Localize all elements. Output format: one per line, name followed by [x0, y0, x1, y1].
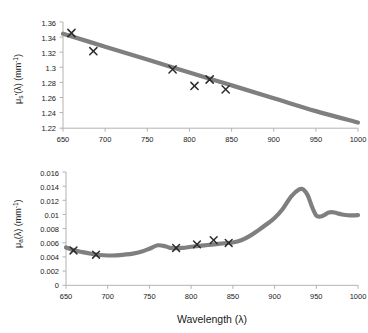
y-tick-label: 1.24 — [41, 109, 56, 118]
spectrum-curve-path — [66, 189, 358, 256]
figure-container: μs'(λ) (mm-1) 1.36 1.34 1.32 1.3 1.28 1.… — [0, 0, 368, 333]
data-point-marker — [222, 86, 229, 93]
x-tick-label: 1000 — [350, 135, 367, 144]
data-point-marker — [191, 82, 198, 89]
x-tick-label: 650 — [57, 135, 70, 144]
x-tick-label: 850 — [225, 135, 238, 144]
x-axis-title: Wavelength (λ) — [177, 313, 247, 325]
y-tick-label: 0.002 — [40, 267, 59, 276]
x-tick-label: 750 — [143, 292, 156, 301]
y-tick-marks-bottom — [63, 172, 67, 285]
y-tick-label: 0.014 — [40, 183, 59, 192]
x-tick-label: 800 — [185, 292, 198, 301]
y-tick-label: 0.016 — [40, 169, 59, 178]
x-tick-label: 700 — [99, 135, 112, 144]
chart-panel-reduced-scattering: μs'(λ) (mm-1) 1.36 1.34 1.32 1.3 1.28 1.… — [0, 0, 368, 168]
x-tick-label: 700 — [101, 292, 114, 301]
data-point-marker — [90, 48, 97, 55]
y-tick-label: 0 — [55, 281, 59, 290]
x-tick-marks-top — [63, 128, 358, 132]
x-tick-label: 950 — [310, 292, 323, 301]
chart-panel-absorption: μa(λ) (mm-1) 0.016 0.014 0.012 0.01 0.00… — [0, 165, 368, 333]
x-tick-label: 750 — [141, 135, 154, 144]
axes-bottom — [63, 172, 359, 289]
y-tick-label: 0.004 — [40, 253, 59, 262]
x-tick-label: 1000 — [350, 292, 367, 301]
y-tick-label: 0.01 — [44, 211, 59, 220]
x-tick-label: 950 — [310, 135, 323, 144]
y-axis-ticklabels-top: 1.36 1.34 1.32 1.3 1.28 1.26 1.24 1.22 — [41, 19, 56, 134]
y-tick-label: 1.36 — [41, 19, 56, 28]
x-axis-ticklabels-bottom: 650 700 750 800 850 900 950 1000 — [60, 292, 367, 301]
reduced-scattering-svg: μs'(λ) (mm-1) 1.36 1.34 1.32 1.3 1.28 1.… — [0, 0, 368, 168]
y-axis-title-text-bottom: μa(λ) (mm-1) — [12, 199, 24, 248]
y-axis-title-text-top: μs'(λ) (mm-1) — [12, 54, 24, 104]
y-tick-label: 0.012 — [40, 197, 59, 206]
y-tick-label: 0.006 — [40, 239, 59, 248]
y-tick-marks-top — [60, 22, 64, 128]
x-tick-label: 650 — [60, 292, 73, 301]
absorption-svg: μa(λ) (mm-1) 0.016 0.014 0.012 0.01 0.00… — [0, 165, 368, 333]
x-tick-label: 900 — [268, 292, 281, 301]
y-tick-label: 1.34 — [41, 34, 56, 43]
y-axis-title-top: μs'(λ) (mm-1) — [12, 54, 24, 104]
x-tick-label: 850 — [227, 292, 240, 301]
y-tick-label: 1.3 — [46, 64, 56, 73]
y-tick-label: 1.28 — [41, 79, 56, 88]
y-axis-ticklabels-bottom: 0.016 0.014 0.012 0.01 0.008 0.006 0.004… — [40, 169, 59, 291]
y-tick-label: 1.32 — [41, 49, 56, 58]
y-tick-label: 1.26 — [41, 94, 56, 103]
y-tick-label: 1.22 — [41, 124, 56, 133]
x-tick-label: 800 — [183, 135, 196, 144]
x-tick-marks-bottom — [66, 285, 358, 289]
x-tick-label: 900 — [267, 135, 280, 144]
y-axis-title-bottom: μa(λ) (mm-1) — [12, 199, 24, 248]
y-tick-label: 0.008 — [40, 225, 59, 234]
x-axis-ticklabels-top: 650 700 750 800 850 900 950 1000 — [57, 135, 367, 144]
